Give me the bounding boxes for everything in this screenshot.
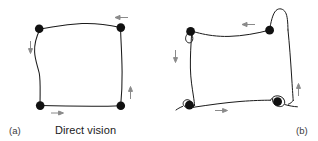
- arrow-down-icon-left: [29, 41, 33, 54]
- panel-direct-vision: Direct vision: [0, 0, 159, 141]
- corner-dot-top-left: [35, 25, 44, 34]
- corner-dot-bottom-right: [117, 102, 126, 111]
- corner-dot-top-right: [265, 26, 274, 35]
- arrow-down-icon-left: [174, 50, 178, 63]
- corner-dot-bottom-left: [185, 101, 194, 110]
- traced-path-mirror: [176, 9, 297, 110]
- arrow-right-icon-bottom: [51, 111, 64, 115]
- arrow-left-icon-top: [115, 15, 128, 19]
- arrow-up-icon-right: [129, 87, 133, 100]
- panel-letter-a: (a): [9, 125, 21, 136]
- corner-dot-top-right: [117, 23, 126, 32]
- mirror-vision-drawing: [159, 0, 318, 120]
- caption-direct-vision: Direct vision: [6, 124, 165, 136]
- panel-mirror-vision: Mirror vision: [159, 0, 318, 141]
- corner-dots-direct: [35, 23, 125, 110]
- corner-dot-top-left: [186, 27, 195, 36]
- corner-dot-bottom-left: [36, 101, 45, 110]
- arrow-up-icon-right: [297, 84, 301, 97]
- direction-arrows-direct: [29, 15, 133, 115]
- traced-path-direct: [35, 23, 123, 106]
- figure-container: Direct vision (a): [0, 0, 318, 141]
- corner-dots-mirror: [185, 26, 282, 110]
- corner-dot-bottom-right: [273, 97, 282, 106]
- arrow-right-icon-bottom: [215, 109, 228, 113]
- direct-vision-drawing: [0, 0, 159, 120]
- arrow-left-icon-top: [242, 22, 255, 26]
- panel-letter-b: (b): [296, 125, 308, 136]
